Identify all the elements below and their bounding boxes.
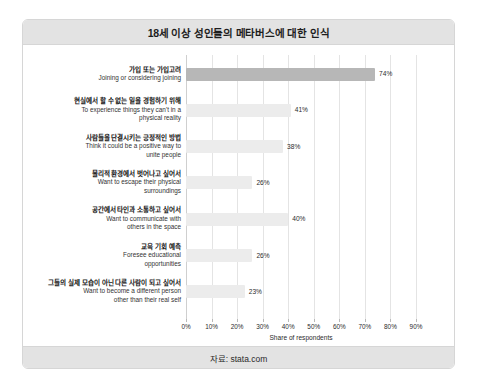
- x-tick-label: 30%: [256, 323, 269, 330]
- bar: [186, 249, 252, 262]
- bar-value-label: 26%: [256, 179, 269, 186]
- source-label: 자료: stata.com: [210, 352, 268, 364]
- x-tick-label: 10%: [205, 323, 218, 330]
- x-tick-40: [288, 319, 289, 322]
- category-label: 공간에서 타인과 소통하고 싶어서Want to communicate wit…: [31, 206, 181, 232]
- chart-title-band: 18세 이상 성인들의 메타버스에 대한 인식: [23, 20, 454, 45]
- x-tick-30: [263, 319, 264, 322]
- category-label-en: Joining or considering joining: [31, 74, 181, 83]
- x-tick-label: 40%: [282, 323, 295, 330]
- category-label-ko: 현실에서 할 수 없는 일을 경험하기 위해: [31, 97, 181, 106]
- category-label-en: To experience things they can't in a: [31, 106, 181, 115]
- bar: [186, 104, 291, 117]
- category-label: 가입 또는 가입고려Joining or considering joining: [31, 66, 181, 83]
- chart-card: 18세 이상 성인들의 메타버스에 대한 인식 가입 또는 가입고려Joinin…: [22, 19, 455, 369]
- category-label-ko: 공간에서 타인과 소통하고 싶어서: [31, 206, 181, 215]
- bar: [186, 285, 245, 298]
- x-axis-title: Share of respondents: [186, 334, 416, 341]
- x-tick-label: 0%: [181, 323, 190, 330]
- x-tick-10: [212, 319, 213, 322]
- category-label: 물리적 환경에서 벗어나고 싶어서Want to escape their ph…: [31, 170, 181, 196]
- category-label-ko: 그들의 실제 모습이 아닌 다른 사람이 되고 싶어서: [31, 279, 181, 288]
- x-tick-label: 50%: [307, 323, 320, 330]
- chart-source-band: 자료: stata.com: [23, 346, 454, 368]
- category-label-en: Think it could be a positive way to: [31, 142, 181, 151]
- bar: [186, 68, 375, 81]
- x-tick-90: [416, 319, 417, 322]
- bar-value-label: 38%: [287, 143, 300, 150]
- category-label-en: surroundings: [31, 187, 181, 196]
- x-tick-0: [186, 319, 187, 322]
- category-label-en: Want to become a different person: [31, 287, 181, 296]
- bar: [186, 140, 283, 153]
- category-label-ko: 가입 또는 가입고려: [31, 66, 181, 75]
- category-label-ko: 사람들을 단결시키는 긍정적인 방법: [31, 134, 181, 143]
- bar-value-label: 41%: [295, 106, 308, 113]
- bar-value-label: 23%: [249, 288, 262, 295]
- bar-chart: 가입 또는 가입고려Joining or considering joining…: [31, 55, 448, 348]
- plot-area: 가입 또는 가입고려Joining or considering joining…: [23, 45, 454, 346]
- category-label: 사람들을 단결시키는 긍정적인 방법Think it could be a po…: [31, 134, 181, 160]
- category-label-en: other than their real self: [31, 296, 181, 305]
- category-label-ko: 물리적 환경에서 벗어나고 싶어서: [31, 170, 181, 179]
- x-axis: Share of respondents 0%10%20%30%40%50%60…: [186, 319, 416, 349]
- category-label: 현실에서 할 수 없는 일을 경험하기 위해To experience thin…: [31, 97, 181, 123]
- category-label: 그들의 실제 모습이 아닌 다른 사람이 되고 싶어서Want to becom…: [31, 279, 181, 305]
- bar-rows: 가입 또는 가입고려Joining or considering joining…: [31, 55, 448, 319]
- x-tick-60: [339, 319, 340, 322]
- page-title: 18세 이상 성인들의 메타버스에 대한 인식: [148, 25, 330, 40]
- category-label: 교육 기회 예측Foresee educationalopportunities: [31, 243, 181, 269]
- bar: [186, 213, 288, 226]
- x-tick-label: 70%: [358, 323, 371, 330]
- category-label-en: Want to communicate with: [31, 215, 181, 224]
- x-tick-label: 90%: [410, 323, 423, 330]
- bar: [186, 176, 252, 189]
- x-tick-label: 60%: [333, 323, 346, 330]
- category-label-en: opportunities: [31, 260, 181, 269]
- category-label-en: Foresee educational: [31, 251, 181, 260]
- x-tick-20: [237, 319, 238, 322]
- bar-value-label: 40%: [292, 215, 305, 222]
- bar-value-label: 26%: [256, 252, 269, 259]
- category-label-en: others in the space: [31, 223, 181, 232]
- x-tick-label: 80%: [384, 323, 397, 330]
- category-label-en: physical reality: [31, 114, 181, 123]
- x-tick-70: [365, 319, 366, 322]
- x-tick-50: [314, 319, 315, 322]
- x-tick-label: 20%: [231, 323, 244, 330]
- category-label-en: Want to escape their physical: [31, 178, 181, 187]
- screenshot-canvas: 18세 이상 성인들의 메타버스에 대한 인식 가입 또는 가입고려Joinin…: [0, 0, 477, 388]
- bar-value-label: 74%: [379, 70, 392, 77]
- category-label-en: unite people: [31, 151, 181, 160]
- x-tick-80: [390, 319, 391, 322]
- category-label-ko: 교육 기회 예측: [31, 243, 181, 252]
